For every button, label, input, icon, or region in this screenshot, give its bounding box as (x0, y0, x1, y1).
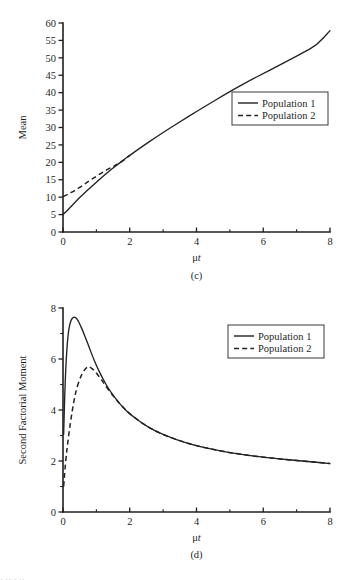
x-tick-label: 2 (127, 516, 132, 527)
chart-c: 05101520253035404550556002468Meanμt(c)Po… (0, 0, 348, 290)
page-edge-text-fragment: · ·· · ·· (0, 574, 130, 580)
x-axis-title: μt (192, 532, 202, 543)
x-tick-label: 0 (60, 236, 65, 247)
x-tick-label: 6 (261, 236, 266, 247)
legend-label: Population 1 (262, 98, 315, 109)
y-tick-label: 2 (51, 456, 56, 467)
x-tick-label: 8 (327, 236, 332, 247)
y-tick-label: 50 (46, 53, 57, 64)
x-tick-label: 2 (127, 236, 132, 247)
chart-d: 0246802468Second Factorial Momentμt(d)Po… (0, 290, 348, 580)
panel-caption: (d) (190, 549, 203, 561)
y-tick-label: 0 (51, 227, 56, 238)
y-tick-label: 55 (46, 35, 57, 46)
y-tick-label: 35 (46, 105, 57, 116)
legend-label: Population 2 (258, 343, 311, 354)
y-tick-label: 0 (51, 507, 56, 518)
y-tick-label: 10 (46, 192, 57, 203)
series-line-dashed (63, 155, 130, 196)
y-tick-label: 4 (51, 405, 57, 416)
y-tick-label: 40 (46, 87, 57, 98)
y-tick-label: 20 (46, 157, 57, 168)
x-tick-label: 4 (194, 236, 200, 247)
y-tick-label: 25 (46, 140, 57, 151)
x-axis-title-t: t (198, 252, 202, 263)
x-axis-title-t: t (198, 532, 202, 543)
y-tick-label: 15 (46, 174, 57, 185)
x-tick-label: 4 (194, 516, 200, 527)
panel-caption: (c) (191, 270, 203, 282)
x-tick-label: 0 (60, 516, 65, 527)
figure-panel-c: 05101520253035404550556002468Meanμt(c)Po… (0, 0, 348, 290)
y-axis-title: Second Factorial Moment (17, 355, 28, 464)
legend-label: Population 2 (262, 110, 315, 121)
y-tick-label: 60 (46, 18, 57, 29)
x-tick-label: 8 (327, 516, 332, 527)
y-tick-label: 5 (51, 209, 56, 220)
x-tick-label: 6 (261, 516, 266, 527)
legend-label: Population 1 (258, 331, 311, 342)
series-line-dashed (64, 367, 330, 487)
y-tick-label: 30 (46, 122, 57, 133)
x-axis-title: μt (192, 252, 202, 263)
y-tick-label: 8 (51, 303, 56, 314)
y-tick-label: 6 (51, 354, 56, 365)
y-tick-label: 45 (46, 70, 57, 81)
y-axis-title: Mean (17, 115, 28, 140)
figure-panel-d: 0246802468Second Factorial Momentμt(d)Po… (0, 290, 348, 580)
